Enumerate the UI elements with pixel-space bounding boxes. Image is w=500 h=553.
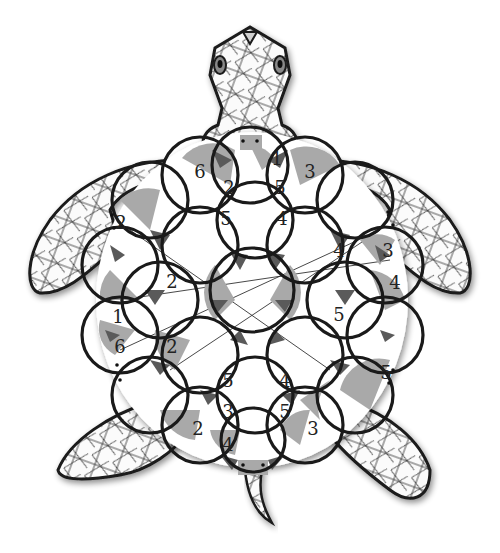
clue: 2 (166, 336, 177, 357)
clue: 5 (279, 401, 290, 422)
clue: 3 (382, 240, 393, 261)
clue: 3 (304, 161, 315, 182)
clue: 5 (380, 362, 391, 383)
clue: 2 (115, 212, 126, 233)
clue: 4 (279, 370, 290, 391)
turtle-head (203, 27, 297, 150)
clue: 2 (223, 177, 234, 198)
clue: 5 (333, 304, 344, 325)
clue: 6 (194, 161, 205, 182)
clue: 5 (220, 208, 231, 229)
clue: 4 (389, 272, 400, 293)
clue: 3 (222, 401, 233, 422)
clue: 2 (166, 271, 177, 292)
clue: 4 (333, 240, 344, 261)
clue: 4 (222, 434, 233, 455)
clue: 3 (307, 418, 318, 439)
clue: 5 (222, 370, 233, 391)
turtle-puzzle: 6 1 3 2 5 5 4 2 4 3 2 4 1 5 6 2 5 5 4 3 … (0, 0, 500, 553)
clue: 5 (274, 177, 285, 198)
clue: 6 (114, 336, 125, 357)
clue: 1 (271, 148, 282, 169)
clue: 4 (276, 208, 287, 229)
clue: 2 (192, 418, 203, 439)
tail (245, 470, 272, 523)
clue: 1 (112, 306, 123, 327)
